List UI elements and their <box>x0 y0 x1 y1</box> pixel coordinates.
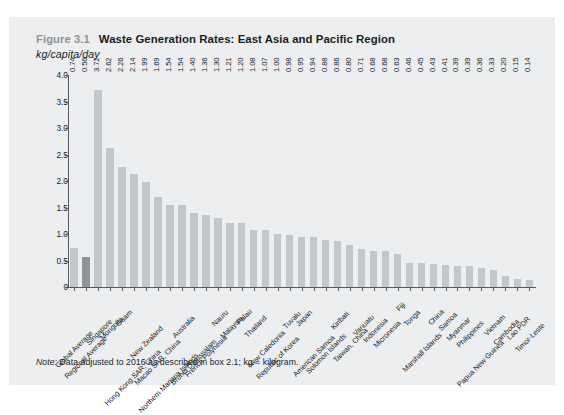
x-axis-tick-mark <box>463 287 475 291</box>
x-axis-label-cell: New Zealand <box>140 292 152 296</box>
bar-item: 0.74 <box>68 75 80 287</box>
x-axis-tick-mark <box>523 287 535 291</box>
bar: 1.08 <box>250 230 257 287</box>
x-axis-category-label: Australia <box>170 314 196 340</box>
x-axis-tick-mark <box>440 287 452 291</box>
bar-value-label: 1.69 <box>152 58 161 72</box>
bar: 0.56 <box>82 257 89 287</box>
x-axis-tick-mark <box>188 287 200 291</box>
x-axis-label-cell: Nauru <box>212 292 224 296</box>
x-axis-category-label: Kiribati <box>329 309 351 331</box>
bar: 1.54 <box>166 205 173 287</box>
figure-note: Note: Data adjusted to 2016 as described… <box>36 357 298 367</box>
x-axis-label-cell: Palau <box>236 292 248 296</box>
bar-item: 0.80 <box>344 75 356 287</box>
x-axis-label-cell: Guam <box>116 292 128 296</box>
x-axis-tick-mark <box>332 287 344 291</box>
x-axis-label-cell: Japan <box>296 292 308 296</box>
x-axis-tick-mark <box>475 287 487 291</box>
bar-value-label: 0.14 <box>524 58 533 72</box>
x-axis-tick-mark <box>428 287 440 291</box>
figure-header: Figure 3.1 Waste Generation Rates: East … <box>36 33 536 60</box>
bar-item: 0.68 <box>380 75 392 287</box>
x-axis-label-cell: Northern Mariana Islands <box>164 292 176 296</box>
x-axis-label-cell: French Polynesia <box>200 292 212 296</box>
x-axis-label-cell: Mongolia <box>104 292 116 296</box>
bar: 1.69 <box>154 197 161 287</box>
x-axis-tick-mark <box>344 287 356 291</box>
bar: 0.41 <box>442 265 449 287</box>
x-axis-label-cell: Vietnam <box>487 292 499 296</box>
bar-value-label: 0.56 <box>80 58 89 72</box>
bar-item: 0.43 <box>428 75 440 287</box>
bar-value-label: 1.36 <box>200 58 209 72</box>
x-axis-label-cell: Cambodia <box>499 292 511 296</box>
x-axis-label-cell: Samoa <box>440 292 452 296</box>
bar-item: 0.20 <box>499 75 511 287</box>
bar: 1.30 <box>214 218 221 287</box>
bar: 0.15 <box>514 279 521 287</box>
bar-value-label: 0.45 <box>416 58 425 72</box>
x-axis-tick-mark <box>272 287 284 291</box>
bar-value-label: 1.54 <box>176 58 185 72</box>
bar-value-label: 0.33 <box>488 58 497 72</box>
bar-item: 0.68 <box>368 75 380 287</box>
x-axis-label-cell: Philippines <box>463 292 475 296</box>
bar-item: 1.30 <box>212 75 224 287</box>
bar-value-label: 1.54 <box>164 58 173 72</box>
bar: 0.20 <box>502 276 509 287</box>
x-axis-tick-mark <box>308 287 320 291</box>
x-axis-label-cell: Regional Average <box>80 292 92 296</box>
bar-value-label: 0.71 <box>356 58 365 72</box>
x-axis-label-cell: Tonga <box>404 292 416 296</box>
bar: 1.00 <box>274 234 281 287</box>
bar-item: 3.72 <box>92 75 104 287</box>
bar: 0.63 <box>394 254 401 287</box>
x-axis-tick-mark <box>92 287 104 291</box>
bar: 0.33 <box>490 270 497 287</box>
bar-item: 1.36 <box>200 75 212 287</box>
bar-value-label: 1.30 <box>212 58 221 72</box>
x-axis-label-cell: Fiji <box>392 292 404 296</box>
x-axis-label-cell: Tuvalu <box>284 292 296 296</box>
bar-value-label: 0.43 <box>428 58 437 72</box>
x-axis-category-label: Tonga <box>401 308 421 328</box>
bar-item: 1.54 <box>164 75 176 287</box>
bar-item: 0.86 <box>332 75 344 287</box>
bar-item: 0.71 <box>356 75 368 287</box>
bar-item: 1.21 <box>224 75 236 287</box>
x-axis-tick-mark <box>499 287 511 291</box>
bar-item: 2.14 <box>128 75 140 287</box>
bar: 0.39 <box>466 266 473 287</box>
bar-item: 0.94 <box>308 75 320 287</box>
x-axis-tick-mark <box>104 287 116 291</box>
x-axis-tick-mark <box>487 287 499 291</box>
x-axis-tick-mark <box>320 287 332 291</box>
bar-value-label: 0.63 <box>392 58 401 72</box>
bar-item: 1.54 <box>176 75 188 287</box>
bar-item: 0.45 <box>416 75 428 287</box>
x-axis-label-cell: Malaysia <box>224 292 236 296</box>
bar: 2.26 <box>118 167 125 287</box>
figure-note-text: Data adjusted to 2016 as described in bo… <box>59 357 298 367</box>
bar: 0.43 <box>430 264 437 287</box>
figure-panel: Figure 3.1 Waste Generation Rates: East … <box>9 17 555 385</box>
bar-value-label: 0.86 <box>332 58 341 72</box>
x-axis-label-cell: Solomon Islands <box>320 292 332 296</box>
x-axis-label-cell: Global Average <box>68 292 80 296</box>
x-axis-tick-mark <box>200 287 212 291</box>
bar: 0.68 <box>382 251 389 287</box>
figure-number: Figure 3.1 <box>36 33 90 45</box>
bar-item: 0.56 <box>80 75 92 287</box>
x-axis-tick-mark <box>128 287 140 291</box>
bar-item: 0.41 <box>440 75 452 287</box>
x-axis-label-cell: Thailand <box>248 292 260 296</box>
bar-value-label: 2.62 <box>104 58 113 72</box>
bar-item: 0.39 <box>463 75 475 287</box>
bar-value-label: 1.20 <box>236 58 245 72</box>
bar: 0.36 <box>478 268 485 287</box>
bar-item: 1.40 <box>188 75 200 287</box>
x-axis-tick-mark <box>452 287 464 291</box>
bar: 0.74 <box>70 248 77 287</box>
x-axis-tick-mark <box>152 287 164 291</box>
